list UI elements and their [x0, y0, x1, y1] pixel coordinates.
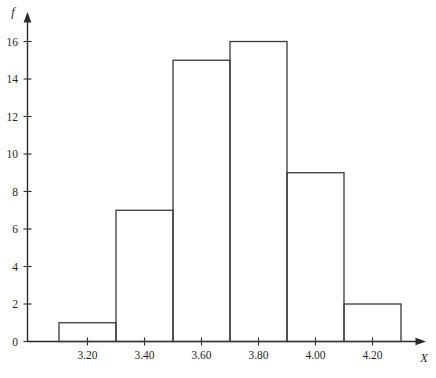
x-tick-label-3-20: 3.20 [77, 349, 97, 361]
histogram-bar [287, 173, 344, 342]
histogram-bar [116, 210, 173, 341]
y-tick-label-6: 6 [12, 223, 18, 235]
x-tick-label-4-20: 4.20 [362, 349, 382, 361]
y-tick-label-10: 10 [7, 148, 19, 160]
x-axis-title: X [419, 351, 429, 365]
y-axis-arrow-icon [24, 12, 32, 23]
y-tick-label-12: 12 [7, 111, 19, 123]
x-tick-label-4-00: 4.00 [305, 349, 325, 361]
y-axis-title: f [11, 5, 16, 19]
y-tick-label-16: 16 [7, 36, 19, 48]
histogram-bar [230, 42, 287, 342]
histogram-plot: 0 2 4 6 8 10 12 14 16 3.20 3.40 3.60 3.8… [0, 0, 436, 378]
y-axis-tick-labels: 0 2 4 6 8 10 12 14 16 [7, 36, 19, 348]
y-tick-label-0: 0 [12, 336, 18, 348]
histogram-bar [173, 60, 230, 341]
x-axis-tick-labels: 3.20 3.40 3.60 3.80 4.00 4.20 [77, 349, 382, 361]
y-tick-label-14: 14 [7, 73, 19, 85]
x-tick-label-3-40: 3.40 [134, 349, 154, 361]
x-axis-arrow-icon [416, 338, 427, 346]
y-tick-label-2: 2 [12, 298, 18, 310]
y-tick-label-8: 8 [12, 186, 18, 198]
axes-group [24, 12, 426, 345]
histogram-figure: 0 2 4 6 8 10 12 14 16 3.20 3.40 3.60 3.8… [0, 0, 436, 378]
x-tick-label-3-80: 3.80 [248, 349, 268, 361]
y-tick-label-4: 4 [12, 261, 18, 273]
histogram-bar [344, 304, 401, 342]
histogram-bars [59, 42, 401, 342]
x-tick-label-3-60: 3.60 [191, 349, 211, 361]
